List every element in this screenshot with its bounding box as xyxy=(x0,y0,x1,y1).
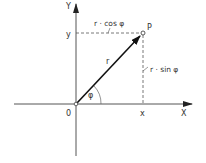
r-cos-phi-label: r · cos φ xyxy=(94,19,124,28)
origin-point xyxy=(74,102,78,106)
r-sin-phi-leader xyxy=(143,67,148,71)
vector-r xyxy=(77,36,140,103)
x-axis-label: X xyxy=(181,109,187,118)
vector-r-label: r xyxy=(106,57,110,66)
point-p xyxy=(141,31,145,35)
origin-label: 0 xyxy=(66,109,71,118)
point-p-label: P xyxy=(147,23,152,32)
angle-arc xyxy=(94,86,101,104)
x-coordinate-label: x xyxy=(140,109,145,118)
y-coordinate-label: y xyxy=(66,30,71,39)
y-axis-label: Y xyxy=(65,2,71,11)
r-sin-phi-label: r · sin φ xyxy=(150,65,178,74)
polar-coordinates-diagram: Y X 0 P y x r φ r · cos φ r · sin φ xyxy=(0,0,206,163)
r-cos-phi-leader xyxy=(108,28,110,33)
angle-phi-label: φ xyxy=(88,91,93,100)
